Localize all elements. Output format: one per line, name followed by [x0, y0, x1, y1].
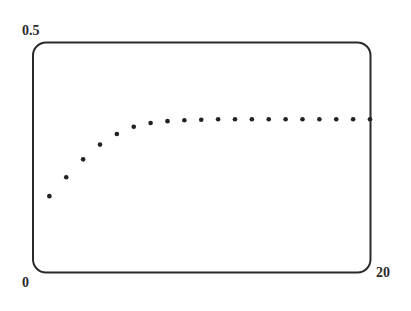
data-point — [47, 194, 52, 199]
x-axis-max-label: 20 — [376, 266, 390, 280]
data-point — [334, 117, 339, 122]
data-point — [266, 117, 271, 122]
data-point — [81, 157, 86, 162]
data-point — [131, 124, 136, 129]
data-point — [216, 117, 221, 122]
data-point — [165, 119, 170, 124]
data-points — [47, 117, 372, 198]
data-point — [351, 117, 356, 122]
data-point — [115, 132, 120, 137]
data-point — [64, 175, 69, 180]
data-point — [368, 117, 373, 122]
origin-label: 0 — [22, 276, 29, 290]
data-point — [233, 117, 238, 122]
data-point — [283, 117, 288, 122]
chart: 0.5 0 20 — [0, 0, 411, 311]
data-point — [148, 121, 153, 126]
plot-area — [0, 0, 411, 311]
data-point — [98, 142, 103, 147]
data-point — [300, 117, 305, 122]
data-point — [182, 118, 187, 123]
y-axis-max-label: 0.5 — [22, 24, 40, 38]
data-point — [250, 117, 255, 122]
data-point — [199, 117, 204, 122]
data-point — [317, 117, 322, 122]
